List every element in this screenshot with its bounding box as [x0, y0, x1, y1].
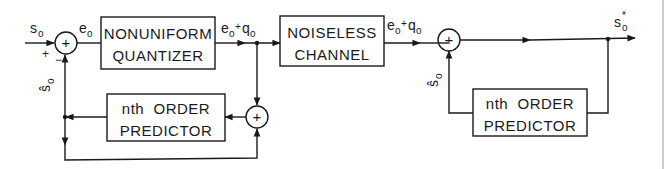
svg-text:o: o: [622, 22, 628, 33]
decoder-summer-symbol: +: [445, 31, 454, 48]
quantizer-label-1: NONUNIFORM: [104, 25, 212, 42]
input-signal-label: s o: [30, 20, 44, 39]
quantized-signal-label: e o + q o: [221, 20, 256, 39]
channel-label-1: NOISELESS: [287, 24, 377, 41]
svg-text:s: s: [30, 20, 37, 36]
dec-predictor-label-1: nth ORDER: [486, 95, 574, 112]
svg-text:o: o: [416, 25, 422, 36]
svg-text:ŝ: ŝ: [425, 80, 441, 87]
input-summer-symbol: +: [62, 34, 71, 51]
enc-predictor-label-1: nth ORDER: [122, 100, 210, 117]
output-junction: [606, 37, 610, 41]
prediction-junction: [63, 115, 67, 119]
svg-text:+: +: [401, 18, 407, 29]
dpcm-block-diagram: + + + + − NONUNIFORM QUANTIZER NOISELESS…: [0, 0, 665, 169]
svg-text:*: *: [622, 10, 626, 21]
enc-prediction-label: ŝ o: [37, 78, 56, 92]
svg-text:q: q: [408, 17, 416, 33]
svg-text:+: +: [235, 21, 241, 32]
svg-text:ŝ: ŝ: [37, 85, 53, 92]
error-signal-label: e o: [79, 20, 93, 39]
svg-text:s: s: [614, 14, 621, 30]
quantizer-label-2: QUANTIZER: [112, 47, 203, 64]
dec-predictor-label-2: PREDICTOR: [484, 117, 577, 134]
channel-out-signal-label: e o + q o: [387, 17, 422, 36]
enc-predictor-label-2: PREDICTOR: [120, 122, 213, 139]
output-signal-label: s o *: [614, 10, 628, 33]
output-line: [530, 38, 635, 40]
svg-text:q: q: [242, 20, 250, 36]
channel-label-2: CHANNEL: [294, 46, 369, 63]
plus-sign: +: [42, 47, 49, 61]
svg-text:o: o: [38, 28, 44, 39]
tap-junction: [255, 41, 259, 45]
decoder-feedback-line: [587, 39, 608, 113]
svg-text:e: e: [79, 20, 87, 36]
feedback-summer-symbol: +: [253, 108, 262, 125]
minus-sign: −: [55, 53, 62, 67]
svg-text:o: o: [87, 28, 93, 39]
svg-text:o: o: [45, 78, 56, 84]
svg-text:o: o: [250, 28, 256, 39]
dec-prediction-label: ŝ o: [425, 73, 444, 87]
svg-text:o: o: [433, 73, 444, 79]
decoder-prediction-line: [449, 51, 473, 113]
svg-text:e: e: [387, 17, 395, 33]
svg-text:e: e: [221, 20, 229, 36]
